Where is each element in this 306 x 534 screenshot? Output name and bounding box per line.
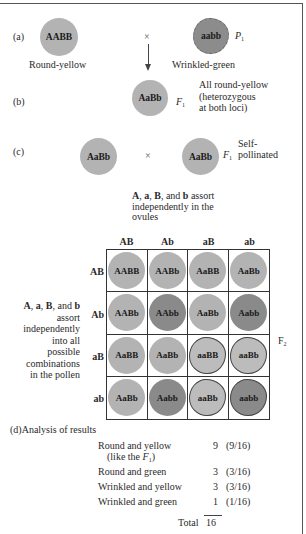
cell-genotype: aaBb	[239, 350, 259, 360]
punnett-cell: AaBB	[188, 250, 229, 292]
result-count: 9	[206, 440, 218, 451]
result-fraction: (1/16)	[226, 496, 250, 507]
col-header-ab: ab	[229, 236, 270, 247]
analysis-heading: (d)Analysis of results	[10, 424, 96, 435]
cell-genotype: aaBb	[198, 393, 218, 403]
result-fraction: (3/16)	[226, 481, 250, 492]
punnett-cell: AaBb	[107, 377, 148, 419]
pea-wrinkled-yellow: aaBb	[230, 337, 267, 374]
punnett-cell: AaBB	[107, 335, 148, 377]
pea-selfing-left: AaBb	[80, 138, 117, 175]
pea-round-yellow: AaBb	[189, 294, 226, 331]
pea-round-yellow: AaBb	[108, 379, 145, 416]
pea-round-yellow: AABB	[108, 252, 145, 289]
col-header-Ab: Ab	[147, 236, 188, 247]
pea-wrinkled-green: aabb	[230, 379, 267, 416]
pollen-note: A, a, B, and b assort independently into…	[4, 300, 80, 381]
generation-f-sub: 1	[182, 102, 185, 108]
generation-f2: F2	[278, 335, 287, 347]
genotype-selfing-right: AaBb	[189, 152, 212, 162]
result-count: 3	[206, 481, 218, 492]
ovules-note: A, a, B, and b assort independently in t…	[132, 191, 252, 223]
allele-b: b	[74, 300, 80, 311]
pollen-note-line7: in the pollen	[4, 369, 80, 381]
cell-genotype: AaBb	[116, 393, 138, 403]
generation-f-sub-c: 1	[229, 155, 232, 161]
pea-round-green: AAbb	[149, 294, 186, 331]
f1-note-line2: (heterozygous	[199, 91, 268, 103]
allele-B: B	[154, 190, 161, 201]
punnett-cell: aaBb	[229, 335, 270, 377]
total-label: Total	[178, 517, 198, 528]
ovules-note-rest: assort	[188, 190, 214, 201]
punnett-cell: AABB	[107, 250, 148, 292]
punnett-cell: aabb	[229, 377, 270, 419]
f1-note: All round-yellow (heterozygous at both l…	[199, 79, 268, 114]
pea-selfing-right: AaBb	[182, 138, 219, 175]
cell-genotype: AABb	[155, 266, 179, 276]
note-prefix: (like the	[107, 451, 143, 462]
label-d: (d)	[10, 424, 22, 435]
cell-genotype: aabb	[239, 393, 258, 403]
punnett-square: AABB AABb AaBB AaBb AABb AAbb AaBb Aabb …	[106, 249, 270, 420]
pea-round-green: Aabb	[230, 294, 267, 331]
col-header-AB: AB	[106, 236, 147, 247]
cell-genotype: AaBb	[238, 266, 260, 276]
allele-A: A	[24, 300, 31, 311]
pea-round-yellow: AABb	[149, 252, 186, 289]
arrow-head-icon	[145, 64, 151, 71]
punnett-cell: AAbb	[148, 292, 189, 334]
pea-round-yellow: AaBb	[230, 252, 267, 289]
selfing-note: Self- pollinated	[238, 139, 278, 160]
sep: , and	[52, 300, 74, 311]
note-suffix: )	[152, 451, 155, 462]
punnett-cell: aaBb	[188, 377, 229, 419]
pea-round-yellow: AABb	[108, 294, 145, 331]
punnett-cell: AaBb	[148, 335, 189, 377]
pollen-note-line5: possible	[4, 346, 80, 358]
frame-top-border	[0, 3, 303, 4]
cell-genotype: AaBb	[156, 350, 178, 360]
result-name: Wrinkled and yellow	[98, 481, 182, 492]
label-c: (c)	[13, 146, 24, 157]
cell-genotype: Aabb	[157, 393, 178, 403]
generation-f2-sub: 2	[284, 341, 287, 347]
phenotype-round-yellow: Round-yellow	[29, 59, 86, 70]
generation-p1: P1	[235, 30, 244, 42]
cell-genotype: AAbb	[156, 308, 179, 318]
selfing-note-line1: Self-	[238, 139, 278, 150]
ovules-note-line1: A, a, B, and b assort	[132, 191, 252, 202]
cell-genotype: Aabb	[238, 308, 259, 318]
cell-genotype: AaBB	[115, 350, 138, 360]
genotype-selfing-left: AaBb	[87, 152, 110, 162]
pea-round-yellow: AaBb	[149, 337, 186, 374]
label-b: (b)	[13, 96, 25, 107]
pollen-note-line6: combinations	[4, 358, 80, 370]
punnett-cell: Aabb	[229, 292, 270, 334]
genotype-f1: AaBb	[138, 93, 161, 103]
pea-parent-round-yellow: AABB	[40, 18, 78, 56]
row-header-Ab: Ab	[86, 309, 104, 320]
result-name: Round and yellow	[98, 440, 171, 451]
result-name: Wrinkled and green	[98, 496, 177, 507]
sep: , and	[161, 190, 183, 201]
punnett-cell: AABb	[148, 250, 189, 292]
cell-genotype: AaBB	[196, 266, 219, 276]
punnett-cell: AaBb	[188, 292, 229, 334]
cross-symbol-c: ×	[145, 150, 151, 161]
result-note-like-f1: (like the F1)	[107, 451, 155, 463]
phenotype-wrinkled-green: Wrinkled-green	[172, 59, 235, 70]
total-value: 16	[206, 517, 216, 528]
pollen-note-line3: independently	[4, 323, 80, 335]
pea-f1: AaBb	[132, 80, 168, 116]
pollen-note-line1: A, a, B, and b	[4, 300, 80, 312]
selfing-note-line2: pollinated	[238, 150, 278, 161]
genotype-aabb-upper: AABB	[46, 32, 72, 42]
row-header-ab: ab	[86, 393, 104, 404]
cross-symbol-a: ×	[144, 31, 150, 42]
punnett-cell: Aabb	[148, 377, 189, 419]
generation-p-sub: 1	[241, 36, 244, 42]
pea-round-green: Aabb	[149, 379, 186, 416]
generation-f1: F1	[176, 96, 185, 108]
f1-note-line1: All round-yellow	[199, 79, 268, 91]
